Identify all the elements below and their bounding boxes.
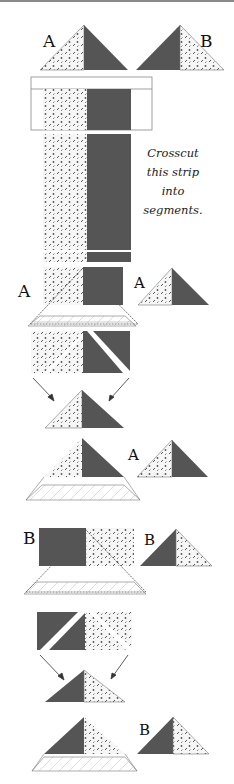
instruction-line-4: segments. <box>138 201 208 220</box>
label-b-top: B <box>200 33 213 50</box>
strip-set <box>31 77 152 262</box>
triangle-result-a1 <box>138 268 209 305</box>
label-b-step1-result: B <box>144 533 155 548</box>
triangle-result-a2 <box>137 440 208 477</box>
cut-pieces-b <box>37 612 132 650</box>
segment-a-with-ruler <box>28 267 138 326</box>
cut-pieces-a <box>31 331 130 373</box>
label-b-step2-result: B <box>139 723 150 738</box>
instruction-line-2: this strip <box>138 163 208 182</box>
instruction-line-3: into <box>138 182 208 201</box>
label-a-step1: A <box>18 283 30 300</box>
segment-b-with-ruler <box>24 528 146 594</box>
label-a-step1-result: A <box>134 276 145 291</box>
quilt-diagram <box>0 0 234 784</box>
triangle-trim-b <box>32 717 137 771</box>
triangle-trim-a <box>26 438 140 500</box>
crosscut-instruction: Crosscut this strip into segments. <box>138 144 208 220</box>
label-a-top: A <box>43 33 55 50</box>
instruction-line-1: Crosscut <box>138 144 208 163</box>
label-a-step2-result: A <box>128 448 139 463</box>
label-b-step1: B <box>23 530 36 547</box>
